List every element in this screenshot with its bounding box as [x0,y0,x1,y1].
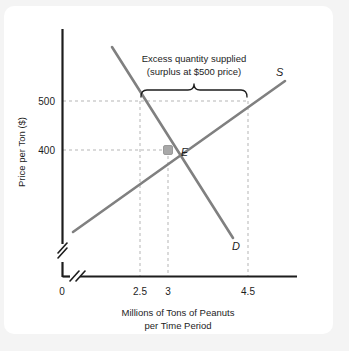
supply-curve-label: S [276,66,284,78]
y-axis-break-icon [58,243,67,258]
demand-curve-label: D [232,240,240,252]
y-axis-title: Price per Ton ($) [16,117,27,187]
x-axis-title-line-1: Millions of Tons of Peanuts [122,307,235,318]
supply-demand-chart: Excess quantity supplied (surplus at $50… [0,0,349,351]
y-tick-label-400: 400 [38,145,55,156]
x-tick-label-4.5: 4.5 [241,286,255,297]
callout-line-2: (surplus at $500 price) [147,66,242,77]
x-axis-title-line-2: per Time Period [144,320,211,331]
page-background: Excess quantity supplied (surplus at $50… [0,0,349,351]
x-tick-label-0: 0 [59,286,65,297]
equilibrium-point-label: E [181,146,189,158]
x-tick-label-3: 3 [165,286,171,297]
equilibrium-marker [164,146,173,155]
y-tick-label-500: 500 [38,96,55,107]
x-tick-label-2.5: 2.5 [133,286,147,297]
callout-line-1: Excess quantity supplied [142,53,247,64]
surplus-brace [141,84,247,97]
supply-curve [73,81,285,232]
